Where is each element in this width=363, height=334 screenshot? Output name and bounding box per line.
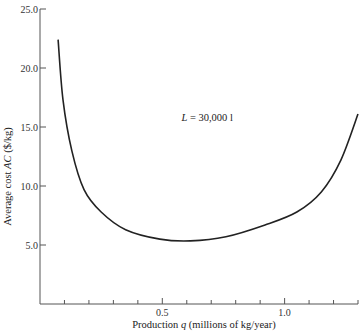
x-tick-label: 1.0 [278,307,291,318]
annotation-value: = 30,000 l [187,112,233,123]
y-tick-label: 5.0 [26,240,39,251]
x-axis: 0.51.0 [40,298,358,318]
curve-annotation: L = 30,000 l [180,112,233,123]
y-tick-label: 15.0 [21,122,39,133]
y-tick-label: 20.0 [21,63,39,74]
average-cost-curve [58,40,358,241]
y-tick-label: 10.0 [21,181,39,192]
y-axis-title: Average cost AC ($/kg) [2,127,14,226]
y-axis: 5.010.015.020.025.0 [21,4,47,305]
x-tick-label: 0.5 [156,307,169,318]
chart-canvas: 5.010.015.020.025.0 0.51.0 L = 30,000 l … [0,0,363,334]
x-axis-title: Production q (millions of kg/year) [132,319,276,331]
y-tick-label: 25.0 [21,4,39,15]
